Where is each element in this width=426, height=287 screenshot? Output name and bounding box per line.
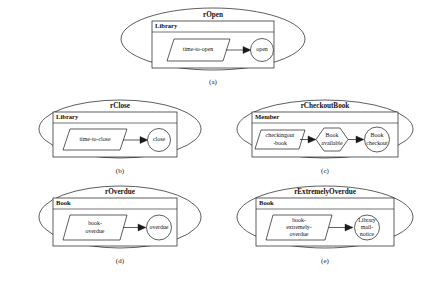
panel-caption: (d) <box>30 257 210 265</box>
class-name-label: Library <box>56 113 79 120</box>
middle-label-line-2: available <box>321 140 343 146</box>
rule-name-label: rClose <box>110 102 130 110</box>
source-label-line-2: overdue <box>86 228 105 234</box>
panel-a: rOpen Library time-to-open open (a) <box>110 6 316 76</box>
class-name-label: Member <box>255 113 279 120</box>
uml-rule-figure: rOpen Library time-to-open open (a) rClo… <box>0 0 426 287</box>
rule-name-label: rOpen <box>203 11 223 19</box>
rule-name-label: rOverdue <box>105 188 135 196</box>
panel-e: rExtremelyOverdue Book book- extremely- … <box>228 183 422 255</box>
rule-name-label: rCheckoutBook <box>301 102 350 110</box>
panel-caption: (c) <box>228 167 422 175</box>
panel-d: rOverdue Book book- overdue overdue (d) <box>30 183 210 255</box>
middle-label-line-1: Book <box>326 132 339 138</box>
source-label-line-2: -book <box>273 140 287 146</box>
source-label: time-to-close <box>79 136 110 142</box>
source-label: time-to-open <box>183 46 213 52</box>
panel-c: rCheckoutBook Member checkingout -book B… <box>228 97 422 165</box>
target-label: close <box>153 136 165 142</box>
target-label: overdue <box>150 224 169 230</box>
class-name-label: Book <box>56 199 71 206</box>
rule-name-label: rExtremelyOverdue <box>294 188 356 196</box>
source-label-line-1: book- <box>88 220 102 226</box>
target-label: open <box>256 46 268 52</box>
target-label-line-2: checkout <box>366 140 388 146</box>
class-name-label: Book <box>259 199 274 206</box>
target-label-line-3: notice <box>360 231 375 237</box>
panel-b: rClose Library time-to-close close (b) <box>30 97 210 165</box>
source-label-line-1: checkingout <box>266 132 295 138</box>
target-label-line-2: mail- <box>361 224 373 230</box>
source-label-line-1: book- <box>292 217 306 223</box>
panel-caption: (a) <box>110 78 316 86</box>
source-label-line-2: extremely- <box>286 224 312 230</box>
class-name-label: Library <box>155 22 178 29</box>
panel-caption: (e) <box>228 257 422 265</box>
panel-caption: (b) <box>30 167 210 175</box>
target-label-line-1: Book <box>371 132 384 138</box>
target-label-line-1: Library <box>358 217 376 223</box>
source-label-line-3: overdue <box>290 231 309 237</box>
